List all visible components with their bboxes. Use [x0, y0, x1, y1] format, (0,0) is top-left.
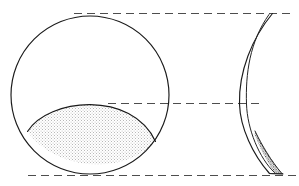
side-inner-wall-curve [246, 15, 274, 173]
lens-deposit-fill [18, 88, 166, 180]
wedge-deposit-boundary [255, 131, 282, 173]
front-circular-view [11, 16, 169, 180]
diagram-root [0, 0, 299, 186]
side-profile-view [239, 14, 290, 181]
technical-diagram [0, 0, 299, 186]
